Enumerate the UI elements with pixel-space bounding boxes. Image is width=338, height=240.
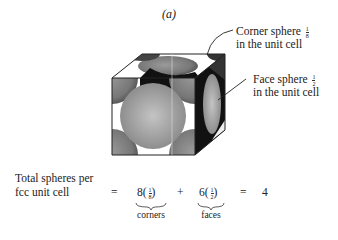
- corner-sphere-callout: Corner sphere 18: [236, 25, 309, 39]
- result-value: 4: [262, 186, 268, 198]
- face-sphere-callout: Face sphere 12: [253, 73, 315, 87]
- corner-leader-line: [207, 30, 233, 55]
- term-corners: 8(18): [137, 186, 155, 200]
- faces-label: faces: [186, 210, 236, 220]
- corners-underbrace: [136, 203, 166, 210]
- face-fraction: 12: [312, 74, 315, 87]
- face-callout-text: Face sphere: [253, 73, 308, 85]
- corner-callout-line2: in the unit cell: [236, 38, 302, 50]
- equals-sign: =: [111, 186, 118, 198]
- equals-sign-2: =: [240, 186, 247, 198]
- term-faces: 6(12): [199, 186, 217, 200]
- corner-fraction: 18: [306, 26, 309, 39]
- faces-underbrace: [198, 203, 224, 210]
- equation-lhs-line2: fcc unit cell: [15, 186, 69, 198]
- corner-callout-text: Corner sphere: [236, 25, 301, 37]
- face-callout-line2: in the unit cell: [253, 86, 319, 98]
- corners-label: corners: [126, 210, 176, 220]
- equation-lhs-line1: Total spheres per: [15, 172, 93, 184]
- plus-sign: +: [177, 186, 184, 198]
